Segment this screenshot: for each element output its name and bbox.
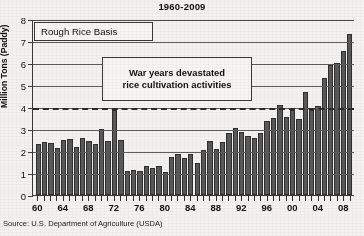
chart-figure: 1960-2009 012345678 Million Tons (Paddy)… [0,0,364,236]
bar-95 [258,133,263,195]
legend-box: Rough Rice Basis [34,22,153,41]
gridline-3 [33,130,354,131]
bar-64 [61,140,66,195]
source-note: Source: U.S. Department of Agriculture (… [3,219,163,228]
bar-91 [233,128,238,195]
bar-86 [201,150,206,195]
gridline-1 [33,174,354,175]
bar-04 [315,106,320,195]
reference-line [33,108,354,110]
bar-79 [156,166,161,195]
y-tick-7 [28,42,33,43]
bar-71 [105,141,110,195]
y-tick-4 [28,108,33,109]
bar-77 [144,166,149,195]
bar-61 [42,142,47,195]
bar-73 [118,140,123,195]
y-tick-2 [28,152,33,153]
bar-94 [252,138,257,195]
gridline-2 [33,152,354,153]
bar-65 [67,139,72,195]
bar-68 [86,141,91,195]
y-tick-label-8: 8 [21,15,26,26]
y-tick-label-3: 3 [21,125,26,136]
bar-66 [74,147,79,195]
bar-70 [99,129,104,195]
y-tick-8 [28,20,33,21]
annotation-line-1: War years devastated [129,67,225,79]
bar-92 [239,132,244,195]
y-tick-label-1: 1 [21,169,26,180]
bar-09 [347,34,352,195]
bar-93 [245,136,250,195]
y-tick-label-7: 7 [21,37,26,48]
y-tick-label-5: 5 [21,81,26,92]
bar-98 [277,105,282,195]
bar-88 [214,149,219,195]
gridline-8 [33,20,354,21]
legend-label: Rough Rice Basis [41,26,117,37]
bar-85 [195,163,200,195]
y-tick-label-4: 4 [21,103,26,114]
bar-96 [264,121,269,195]
x-tick-09 [346,196,352,201]
chart-title: 1960-2009 [0,1,364,12]
y-tick-1 [28,174,33,175]
x-axis-labels: 60646872768084889296000408 [32,202,354,216]
y-tick-6 [28,64,33,65]
bar-63 [55,148,60,195]
bar-87 [207,141,212,195]
x-axis-ticks [32,196,354,201]
y-tick-5 [28,86,33,87]
bar-78 [150,168,155,196]
gridline-7 [33,42,354,43]
y-tick-label-0: 0 [21,191,26,202]
bar-99 [284,117,289,195]
bar-81 [169,157,174,196]
y-tick-label-6: 6 [21,59,26,70]
bar-67 [80,138,85,195]
bar-07 [334,63,339,195]
annotation-line-2: rice cultivation activities [123,79,232,91]
bar-83 [182,158,187,195]
y-tick-label-2: 2 [21,147,26,158]
bar-80 [163,172,168,195]
plot-area: 012345678 [32,20,354,196]
bar-89 [220,142,225,195]
bar-90 [226,133,231,195]
y-tick-3 [28,130,33,131]
bar-05 [322,78,327,195]
annotation-war-years: War years devastated rice cultivation ac… [102,57,252,101]
x-label-cell-09 [346,202,352,216]
y-axis-title: Million Tons (Paddy) [0,25,9,108]
